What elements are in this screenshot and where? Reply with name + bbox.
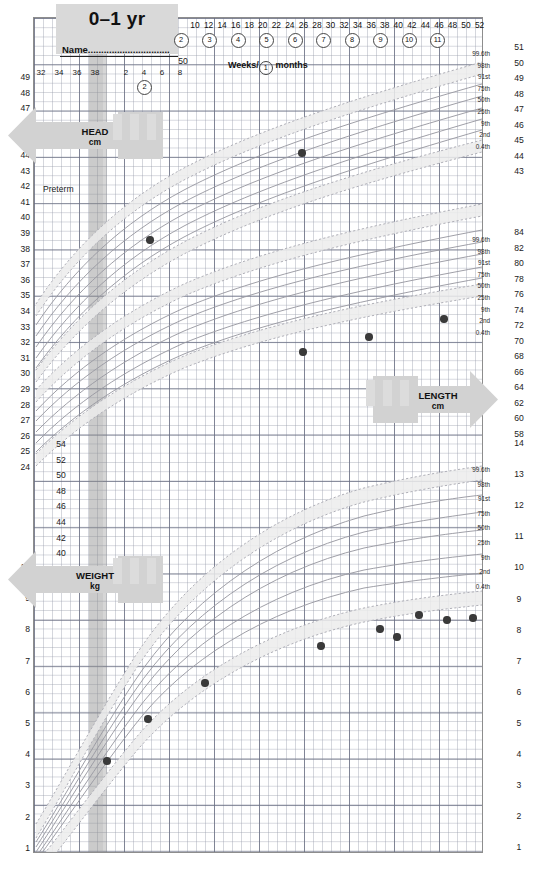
length-data-point-1 <box>365 333 372 340</box>
growth-chart-page: 0–1 yr Name.............................… <box>0 0 541 873</box>
head-data-point-1 <box>298 149 305 156</box>
weight-data-point-1 <box>144 715 151 722</box>
weight-data-point-4 <box>376 625 383 632</box>
length-data-point-0 <box>299 348 306 355</box>
head-data-point-0 <box>146 236 153 243</box>
weight-data-point-6 <box>415 611 422 618</box>
weight-data-point-3 <box>317 642 324 649</box>
weight-data-point-2 <box>201 679 208 686</box>
weight-data-point-5 <box>393 633 400 640</box>
weight-data-point-7 <box>443 616 450 623</box>
measurement-dots <box>0 0 541 873</box>
weight-data-point-0 <box>103 757 110 764</box>
length-data-point-2 <box>440 315 447 322</box>
weight-data-point-8 <box>469 614 476 621</box>
